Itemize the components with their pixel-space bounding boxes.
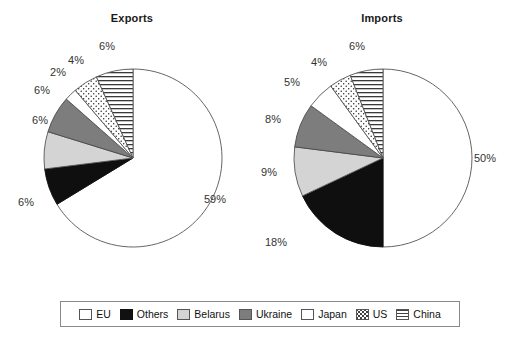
exports-label-us: 4% xyxy=(56,54,96,66)
exports-label-belarus: 6% xyxy=(20,114,60,126)
imports-label-belarus: 9% xyxy=(249,166,289,178)
light-gray-swatch-icon xyxy=(177,309,190,320)
imports-label-ukraine: 8% xyxy=(253,113,293,125)
exports-label-ukraine: 6% xyxy=(22,84,62,96)
imports-pie xyxy=(294,69,472,247)
exports-label-eu: 59% xyxy=(204,193,248,205)
black-swatch-icon xyxy=(120,309,133,320)
legend-label: EU xyxy=(96,308,111,320)
legend-label: Belarus xyxy=(194,308,230,320)
imports-label-japan: 5% xyxy=(272,76,312,88)
dark-gray-swatch-icon xyxy=(239,309,252,320)
legend-item-ukraine[interactable]: Ukraine xyxy=(239,308,292,320)
pie-chart-figure: Exports Imports 59% 6% 6% 6% 2% 4% 6% 50… xyxy=(0,0,518,339)
legend-item-others[interactable]: Others xyxy=(120,308,169,320)
white-swatch-icon xyxy=(301,309,314,320)
dotted-swatch-icon xyxy=(356,309,369,320)
pie-slice-eu xyxy=(383,69,472,247)
exports-label-others: 6% xyxy=(6,196,46,208)
imports-label-us: 4% xyxy=(299,56,339,68)
exports-pie xyxy=(44,69,222,247)
legend-item-japan[interactable]: Japan xyxy=(301,308,347,320)
exports-label-japan: 2% xyxy=(38,66,78,78)
legend-item-belarus[interactable]: Belarus xyxy=(177,308,230,320)
legend-item-china[interactable]: China xyxy=(396,308,440,320)
legend-label: China xyxy=(413,308,440,320)
legend-item-us[interactable]: US xyxy=(356,308,388,320)
legend-label: Others xyxy=(137,308,169,320)
white-swatch-icon xyxy=(79,309,92,320)
imports-label-china: 6% xyxy=(337,40,377,52)
legend-label: Japan xyxy=(318,308,347,320)
legend-label: Ukraine xyxy=(256,308,292,320)
legend-item-eu[interactable]: EU xyxy=(79,308,111,320)
legend: EUOthersBelarusUkraineJapanUSChina xyxy=(60,301,460,327)
imports-label-eu: 50% xyxy=(474,152,518,164)
legend-label: US xyxy=(373,308,388,320)
exports-label-china: 6% xyxy=(87,40,127,52)
imports-label-others: 18% xyxy=(256,236,296,248)
horizontal-line-swatch-icon xyxy=(396,309,409,320)
